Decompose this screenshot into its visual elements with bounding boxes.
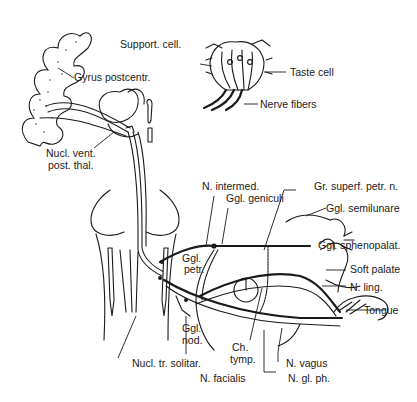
label-ggl-nod-line2: nod. bbox=[182, 334, 202, 346]
label-n-gl-ph: N. gl. ph. bbox=[288, 372, 330, 384]
label-soft-palate: Soft palate bbox=[350, 263, 400, 275]
label-taste-cell: Taste cell bbox=[290, 66, 334, 78]
label-tongue: Tongue bbox=[364, 304, 398, 316]
label-nucl-vent-line2: post. thal. bbox=[48, 159, 94, 171]
label-n-intermed: N. intermed. bbox=[202, 180, 259, 192]
label-ggl-sphenopalat: Ggl. sphenopalat. bbox=[318, 239, 400, 251]
label-ggl-geniculi: Ggl. geniculi bbox=[226, 192, 284, 204]
brainstem-tract bbox=[128, 132, 164, 276]
label-n-ling: N. ling. bbox=[350, 281, 383, 293]
label-n-vagus: N. vagus bbox=[286, 357, 327, 369]
label-ggl-petr-line2: petr. bbox=[184, 263, 204, 275]
trigeminal-region bbox=[286, 215, 360, 292]
label-support-cell: Support. cell. bbox=[120, 38, 181, 50]
label-nucl-vent-line1: Nucl. vent. bbox=[46, 147, 96, 159]
postcentral-gyrus-drawing bbox=[22, 33, 91, 146]
label-n-facialis: N. facialis bbox=[200, 372, 246, 384]
label-nerve-fibers: Nerve fibers bbox=[260, 98, 317, 110]
label-gr-superf-petr-n: Gr. superf. petr. n. bbox=[314, 180, 398, 192]
label-gyrus-postcentr: Gyrus postcentr. bbox=[74, 71, 150, 83]
label-ch-tymp-line1: Ch. bbox=[232, 341, 248, 353]
facial-nerve-route bbox=[158, 243, 310, 350]
taste-pathway-diagram: Support. cell. Taste cell Nerve fibers G… bbox=[0, 0, 417, 402]
label-ch-tymp-line2: tymp. bbox=[230, 353, 256, 365]
label-ggl-nod-line1: Ggl. bbox=[182, 322, 201, 334]
label-nucl-tr-solitar: Nucl. tr. solitar. bbox=[132, 357, 201, 369]
diagram-drawing bbox=[0, 0, 417, 402]
label-ggl-semilunare: Ggl. semilunare bbox=[326, 202, 400, 214]
